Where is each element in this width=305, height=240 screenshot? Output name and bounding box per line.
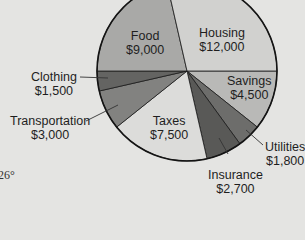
savings-label: Savings $4,500 xyxy=(227,74,271,102)
transportation-amount: $3,000 xyxy=(10,128,90,142)
housing-name: Housing xyxy=(199,26,245,40)
housing-label: Housing $12,000 xyxy=(199,26,245,54)
food-label: Food $9,000 xyxy=(126,29,164,57)
housing-amount: $12,000 xyxy=(199,40,245,54)
insurance-amount: $2,700 xyxy=(208,182,263,196)
insurance-label: Insurance $2,700 xyxy=(208,168,263,196)
taxes-label: Taxes $7,500 xyxy=(150,114,188,142)
utilities-amount: $1,800 xyxy=(265,154,305,168)
food-name: Food xyxy=(126,29,164,43)
transportation-label: Transportation $3,000 xyxy=(10,114,90,142)
clothing-amount: $1,500 xyxy=(31,84,77,98)
margin-degree-text: 26° xyxy=(0,168,15,183)
transportation-name: Transportation xyxy=(10,114,90,128)
clothing-label: Clothing $1,500 xyxy=(31,70,77,98)
taxes-name: Taxes xyxy=(150,114,188,128)
utilities-label: Utilities $1,800 xyxy=(265,140,305,168)
insurance-name: Insurance xyxy=(208,168,263,182)
clothing-name: Clothing xyxy=(31,70,77,84)
taxes-amount: $7,500 xyxy=(150,128,188,142)
food-amount: $9,000 xyxy=(126,43,164,57)
savings-name: Savings xyxy=(227,74,271,88)
savings-amount: $4,500 xyxy=(227,88,271,102)
utilities-name: Utilities xyxy=(265,140,305,154)
